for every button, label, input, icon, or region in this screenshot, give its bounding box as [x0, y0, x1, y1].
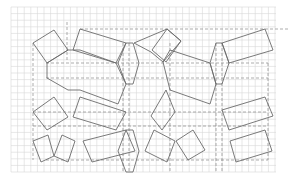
tiles [33, 29, 273, 172]
tile-rectangle [222, 29, 273, 63]
tile-rectangle [73, 97, 126, 130]
tile-octagon [47, 50, 126, 104]
tile-square [176, 130, 205, 160]
tile-rectangle [73, 29, 126, 63]
tile-rectangle [230, 130, 272, 162]
tiling-diagram [0, 0, 300, 182]
tile-square [134, 29, 181, 62]
tile-rectangle [222, 97, 273, 130]
tile-rectangle [83, 130, 135, 162]
